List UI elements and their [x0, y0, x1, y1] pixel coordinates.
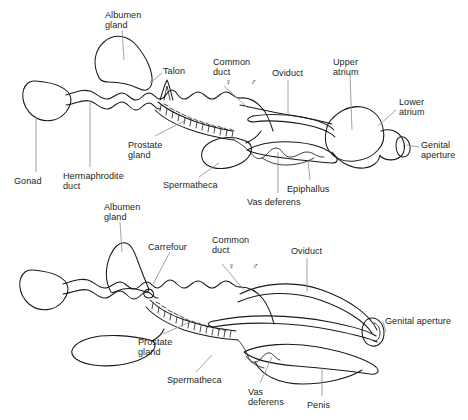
label-spermatheca-upper: Spermatheca — [163, 180, 218, 190]
upper-atrium-upper — [326, 107, 384, 162]
label-vas-deferens-upper: Vas deferens — [247, 197, 301, 207]
label-common-duct-lower: Common duct — [212, 235, 249, 256]
label-oviduct-lower: Oviduct — [291, 246, 322, 256]
epiphallus-upper — [247, 142, 337, 163]
leader-upper-atrium-upper — [350, 74, 352, 130]
diagram-page: Albumen gland Talon Common duct Oviduct … — [0, 0, 468, 420]
label-genital-aperture-lower: Genital aperture — [385, 316, 451, 326]
prostate-gland-upper-bottom — [155, 110, 234, 140]
oviduct-lower-band-top — [214, 316, 376, 336]
leader-albumen-gland-lower — [120, 222, 122, 252]
prostate-gland-upper-top — [158, 102, 232, 131]
label-prostate-gland-lower: Prostate gland — [138, 337, 172, 358]
female-symbol-lower: ♀ — [228, 262, 235, 271]
leader-albumen-gland-upper — [122, 30, 124, 60]
oviduct-lower-left-cap — [208, 321, 214, 327]
penis-lower-lobe — [255, 362, 362, 384]
epiphallus-upper-crease — [262, 158, 314, 165]
gonad-outline-lower — [20, 270, 68, 310]
label-albumen-gland-lower: Albumen gland — [104, 202, 140, 223]
leader-epiphallus-upper — [308, 160, 310, 180]
common-duct-lower — [240, 287, 274, 324]
spermatheca-duct-upper — [246, 131, 261, 143]
label-hermaphrodite-duct-upper: Hermaphrodite duct — [63, 171, 124, 192]
leader-spermatheca-lower — [196, 355, 212, 372]
leader-prostate-gland-upper — [155, 120, 186, 136]
vas-deferens-lower — [238, 340, 280, 362]
gonad-outline-upper — [23, 81, 71, 121]
oviduct-upper-return — [248, 116, 253, 122]
penis-lower — [244, 344, 378, 374]
label-vas-deferens-lower: Vas deferens — [248, 387, 284, 408]
label-carrefour-lower: Carrefour — [148, 242, 187, 252]
hermaphrodite-duct-upper-bottom — [66, 101, 160, 110]
leader-prostate-gland-lower — [163, 322, 190, 334]
label-prostate-gland-upper: Prostate gland — [128, 140, 162, 161]
label-genital-aperture-upper: Genital aperture — [421, 140, 455, 161]
label-spermatheca-lower: Spermatheca — [167, 375, 222, 385]
label-epiphallus-upper: Epiphallus — [287, 184, 329, 194]
male-symbol-upper: ♂ — [250, 78, 257, 87]
label-upper-atrium-upper: Upper atrium — [333, 57, 359, 78]
label-talon-upper: Talon — [163, 66, 185, 76]
male-symbol-lower: ♂ — [252, 262, 259, 271]
upper-diagram-group — [23, 30, 419, 193]
label-lower-atrium-upper: Lower atrium — [399, 97, 425, 118]
label-oviduct-upper: Oviduct — [272, 68, 303, 78]
prostate-gland-lower-top — [150, 300, 236, 331]
label-albumen-gland-upper: Albumen gland — [105, 10, 141, 31]
hermaphrodite-duct-upper-top — [66, 90, 240, 100]
albumen-gland-upper — [95, 36, 152, 90]
oviduct-lower-band-bottom — [213, 323, 377, 342]
female-symbol-upper: ♀ — [225, 78, 232, 87]
spermatheca-upper — [202, 138, 252, 169]
genital-aperture-lower — [362, 318, 384, 346]
leader-common-duct-upper — [224, 86, 248, 108]
hermaphrodite-duct-lower-top — [63, 279, 240, 289]
leader-lower-atrium-upper — [378, 110, 396, 126]
label-gonad-upper: Gonad — [14, 176, 42, 186]
leader-spermatheca-upper — [199, 163, 219, 177]
label-penis-lower: Penis — [307, 400, 330, 410]
lower-diagram-group — [20, 222, 386, 396]
label-common-duct-upper: Common duct — [213, 57, 250, 78]
leader-genital-aperture-upper — [406, 145, 419, 147]
